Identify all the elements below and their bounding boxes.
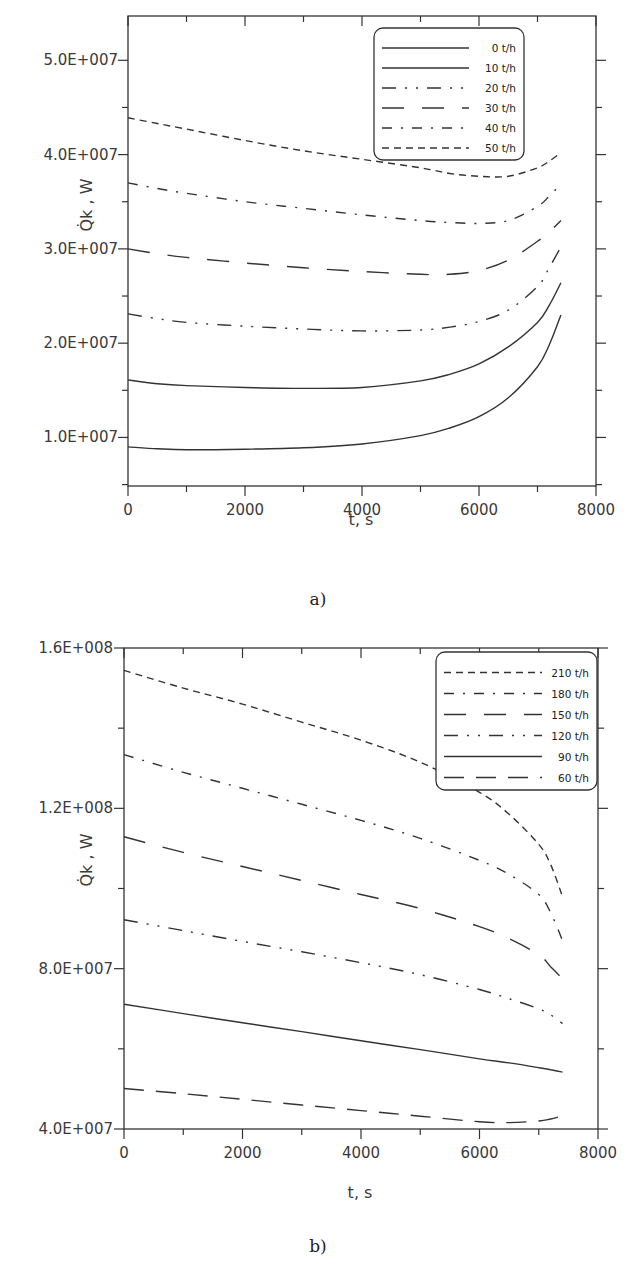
figure: 1.0E+0072.0E+0073.0E+0074.0E+0075.0E+007…: [0, 0, 629, 1265]
x-tick-label: 0: [119, 1144, 129, 1162]
y-tick-label: 4.0E+007: [43, 146, 118, 164]
chart-a: 1.0E+0072.0E+0073.0E+0074.0E+0075.0E+007…: [43, 16, 615, 609]
chart-b: 4.0E+0078.0E+0071.2E+0081.6E+008 0200040…: [38, 639, 617, 1256]
series-line-60-t-h: [124, 1089, 563, 1123]
caption-b: b): [309, 1236, 327, 1256]
series-line-0-t-h: [128, 315, 561, 450]
plot-border: [128, 16, 596, 486]
x-axis-title-b: t, s: [348, 1183, 373, 1202]
y-tick-label: 5.0E+007: [43, 51, 118, 69]
plot-frame-a: [128, 16, 596, 486]
legend-label: 90 t/h: [558, 751, 589, 763]
legend-label: 20 t/h: [485, 82, 516, 94]
caption-a: a): [310, 589, 327, 609]
x-tick-label: 8000: [579, 1144, 617, 1162]
x-axis-title-a: t, s: [349, 510, 374, 529]
series-line-10-t-h: [128, 283, 561, 389]
legend-a: 0 t/h10 t/h20 t/h30 t/h40 t/h50 t/h: [374, 28, 524, 160]
legend-label: 60 t/h: [558, 772, 589, 784]
x-tick-label: 2000: [226, 501, 264, 519]
x-tick-label: 8000: [577, 501, 615, 519]
legend-label: 40 t/h: [485, 122, 516, 134]
legend-label: 180 t/h: [551, 688, 589, 700]
x-tick-label: 4000: [342, 1144, 380, 1162]
legend-label: 30 t/h: [485, 102, 516, 114]
y-tick-label: 1.6E+008: [38, 639, 113, 657]
series-lines-a: [128, 118, 561, 450]
legend-label: 10 t/h: [485, 62, 516, 74]
legend-label: 120 t/h: [551, 730, 589, 742]
legend-b: 210 t/h180 t/h150 t/h120 t/h90 t/h60 t/h: [436, 652, 597, 790]
series-line-120-t-h: [124, 920, 563, 1024]
x-tick-label: 0: [123, 501, 133, 519]
legend-label: 150 t/h: [551, 709, 589, 721]
legend-label: 0 t/h: [492, 42, 516, 54]
series-line-90-t-h: [124, 1004, 563, 1072]
y-tick-label: 4.0E+007: [38, 1120, 113, 1138]
series-line-30-t-h: [128, 221, 561, 275]
series-line-150-t-h: [124, 837, 563, 979]
y-axis-title-b: Q̇k , W: [77, 833, 96, 886]
y-axis-title-a: Q̇k , W: [77, 178, 96, 231]
y-tick-label: 3.0E+007: [43, 240, 118, 258]
x-tick-label: 2000: [223, 1144, 261, 1162]
series-line-40-t-h: [128, 183, 561, 224]
series-line-20-t-h: [128, 247, 561, 331]
x-tick-label: 6000: [460, 501, 498, 519]
y-tick-label: 1.0E+007: [43, 428, 118, 446]
y-tick-label: 8.0E+007: [38, 960, 113, 978]
legend-label: 50 t/h: [485, 142, 516, 154]
x-tick-label: 6000: [460, 1144, 498, 1162]
y-tick-label: 1.2E+008: [38, 799, 113, 817]
y-tick-label: 2.0E+007: [43, 334, 118, 352]
legend-label: 210 t/h: [551, 667, 589, 679]
